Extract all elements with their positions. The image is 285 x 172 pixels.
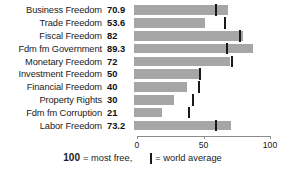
x-axis-tick-label: 50	[199, 140, 209, 150]
bar-area	[134, 81, 282, 94]
category-value: 21	[102, 108, 134, 118]
bar-area	[134, 94, 282, 107]
chart-legend: 100 = most free, = world average	[0, 152, 285, 164]
table-row: Fiscal Freedom 82	[0, 30, 285, 43]
category-label: Property Rights	[0, 95, 102, 105]
category-label: Labor Freedom	[0, 121, 102, 131]
bar-area	[134, 106, 282, 119]
legend-most-free-number: 100	[63, 152, 80, 164]
category-value: 89.3	[102, 44, 134, 54]
category-value: 53.6	[102, 18, 134, 28]
x-axis-tick-label: 100	[263, 140, 277, 150]
table-row: Labor Freedom 73.2	[0, 119, 285, 132]
bar-fill	[134, 18, 205, 28]
bar-track	[134, 30, 267, 43]
x-axis: 0 50 100	[137, 136, 270, 137]
bar-track	[134, 17, 267, 30]
x-axis-tick-label: 0	[135, 140, 140, 150]
bar-fill	[134, 108, 162, 118]
category-value: 30	[102, 95, 134, 105]
world-average-marker-icon	[224, 17, 226, 29]
table-row: Trade Freedom 53.6	[0, 17, 285, 30]
bar-area	[134, 68, 282, 81]
x-axis-tick	[270, 136, 271, 139]
world-average-marker-icon	[215, 120, 217, 132]
category-label: Trade Freedom	[0, 18, 102, 28]
bar-area	[134, 30, 282, 43]
table-row: Fdm fm Government 89.3	[0, 42, 285, 55]
world-average-marker-icon	[215, 4, 217, 16]
category-value: 82	[102, 31, 134, 41]
table-row: Monetary Freedom 72	[0, 55, 285, 68]
bar-track	[134, 4, 267, 17]
bar-area	[134, 42, 282, 55]
bar-fill	[134, 95, 174, 105]
legend-world-average-text: = world average	[155, 152, 221, 164]
category-value: 70.9	[102, 5, 134, 15]
bar-area	[134, 55, 282, 68]
bar-fill	[134, 69, 201, 79]
bar-area	[134, 119, 282, 132]
bar-fill	[134, 57, 230, 67]
category-label: Investment Freedom	[0, 69, 102, 79]
world-average-marker-icon	[239, 30, 241, 42]
category-value: 73.2	[102, 121, 134, 131]
bar-track	[134, 68, 267, 81]
category-value: 50	[102, 69, 134, 79]
category-value: 72	[102, 57, 134, 67]
table-row: Financial Freedom 40	[0, 81, 285, 94]
bar-area	[134, 17, 282, 30]
world-average-marker-icon	[198, 81, 200, 93]
bar-fill	[134, 44, 253, 54]
bar-fill	[134, 82, 187, 92]
category-label: Fiscal Freedom	[0, 31, 102, 41]
x-axis-tick	[204, 136, 205, 139]
world-average-marker-icon	[188, 107, 190, 119]
x-axis-tick	[137, 136, 138, 139]
bar-area	[134, 4, 282, 17]
world-average-marker-icon	[192, 94, 194, 106]
world-average-marker-icon	[199, 68, 201, 80]
table-row: Business Freedom 70.9	[0, 4, 285, 17]
world-average-marker-icon	[231, 56, 233, 68]
chart-rows: Business Freedom 70.9 Trade Freedom 53.6…	[0, 4, 285, 132]
bar-track	[134, 42, 267, 55]
category-label: Business Freedom	[0, 5, 102, 15]
bar-track	[134, 94, 267, 107]
category-label: Monetary Freedom	[0, 57, 102, 67]
world-average-marker-icon	[150, 153, 152, 164]
legend-most-free-text: = most free,	[83, 152, 132, 164]
table-row: Investment Freedom 50	[0, 68, 285, 81]
category-label: Financial Freedom	[0, 82, 102, 92]
category-value: 40	[102, 82, 134, 92]
bar-fill	[134, 5, 228, 15]
bar-fill	[134, 31, 243, 41]
bar-track	[134, 106, 267, 119]
table-row: Property Rights 30	[0, 94, 285, 107]
bar-track	[134, 81, 267, 94]
freedom-index-bar-chart: Business Freedom 70.9 Trade Freedom 53.6…	[0, 0, 285, 172]
table-row: Fdm fm Corruption 21	[0, 106, 285, 119]
bar-track	[134, 119, 267, 132]
category-label: Fdm fm Corruption	[0, 108, 102, 118]
category-label: Fdm fm Government	[0, 44, 102, 54]
world-average-marker-icon	[226, 43, 228, 55]
bar-track	[134, 55, 267, 68]
